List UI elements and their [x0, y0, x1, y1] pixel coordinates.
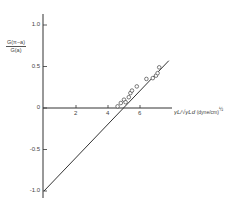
x-axis-label: γL/√γLd (dyne/cm)½: [174, 106, 223, 115]
x-tick-label: 2: [74, 110, 77, 116]
y-ticks: [43, 25, 47, 191]
x-tick-label: 6: [138, 110, 141, 116]
y-tick-label: -0.5: [30, 146, 40, 152]
data-point: [157, 66, 161, 70]
data-point: [119, 101, 123, 105]
y-tick-label: -1.0: [30, 187, 40, 193]
data-points: [116, 66, 161, 109]
x-tick-label: 4: [106, 110, 109, 116]
x-axis-label-unit: (dyne/cm): [197, 109, 219, 115]
data-point: [124, 100, 128, 104]
y-tick-label: 0.5: [32, 63, 40, 69]
x-axis-label-exponent: ½: [219, 106, 223, 112]
y-axis-label-denominator: G(a): [11, 47, 22, 53]
x-axis-label-main: γL/√γLd: [174, 109, 195, 115]
data-point: [156, 71, 160, 75]
fit-line: [44, 61, 169, 191]
y-tick-label: 0: [37, 104, 40, 110]
data-point: [130, 89, 134, 93]
y-tick-label: 1.0: [32, 21, 40, 27]
data-point: [135, 85, 139, 89]
y-axis-label: G(π−a) G(a): [6, 39, 26, 54]
data-point: [145, 77, 149, 81]
y-axis-label-numerator: G(π−a): [6, 39, 26, 47]
data-point: [151, 76, 155, 80]
data-point: [116, 105, 120, 109]
data-point: [127, 95, 131, 99]
